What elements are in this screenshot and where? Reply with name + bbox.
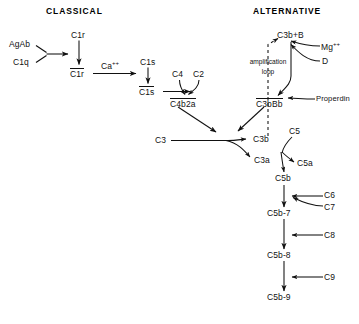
node-c6: C6 <box>324 191 335 200</box>
node-c5b-9: C5b-9 <box>267 293 291 302</box>
header-classical: CLASSICAL <box>46 6 103 16</box>
node-c3b: C3b <box>253 135 269 144</box>
agab-bracket-upper <box>36 46 47 53</box>
node-c1r-inactive: C1r <box>71 31 85 40</box>
node-c3a: C3a <box>254 156 270 165</box>
arrow-mg-to-c3bplusb <box>291 41 320 46</box>
arrow-c7-into-chain <box>293 198 323 207</box>
arrow-c4b2a-to-c3 <box>178 107 216 132</box>
arrow-properdin-to-c3bbb <box>288 98 315 99</box>
complement-cascade-diagram: CLASSICAL ALTERNATIVE AgAb C1q C1r C1r C… <box>0 0 359 324</box>
node-c1r-active-text: C1r <box>70 68 84 78</box>
node-c5b-7: C5b-7 <box>267 209 291 218</box>
node-c5a: C5a <box>297 159 313 168</box>
arrow-c5-to-c5a <box>282 152 294 162</box>
c5-stem <box>282 137 292 153</box>
calcium-charge: ++ <box>112 60 119 66</box>
node-c3bbb-text: C3bBb <box>256 98 283 108</box>
amplification-loop-line-1: amplification <box>231 57 305 67</box>
arrow-c3bbb-to-c3 <box>238 107 264 131</box>
header-alternative: ALTERNATIVE <box>253 6 321 16</box>
node-c3: C3 <box>155 136 166 145</box>
node-c3bbb: C3bBb <box>256 98 283 108</box>
node-c1r-active: C1r <box>70 68 84 78</box>
arrow-c3-to-c3b <box>228 139 246 141</box>
node-c9: C9 <box>324 273 335 282</box>
node-c4b2a-text: C4b2a <box>170 98 196 108</box>
node-c1s-inactive: C1s <box>140 58 155 67</box>
calcium-symbol: Ca <box>101 61 112 71</box>
node-c1s-active-text: C1s <box>139 86 154 96</box>
node-c1s-active: C1s <box>139 86 154 96</box>
node-c5b-8: C5b-8 <box>267 251 291 260</box>
node-c4: C4 <box>172 70 183 79</box>
node-c5b: C5b <box>275 174 291 183</box>
node-agab: AgAb <box>9 40 30 49</box>
arrow-c2-into-complex <box>189 80 200 95</box>
node-calcium-ion: Ca++ <box>101 60 119 70</box>
node-c4b2a: C4b2a <box>170 98 196 108</box>
c1q-bracket-lower <box>36 56 47 63</box>
node-c8: C8 <box>324 231 335 240</box>
node-magnesium-ion: Mg++ <box>321 41 340 51</box>
node-c3b-plus-b: C3b+B <box>277 31 304 40</box>
amplification-loop-line-2: loop <box>231 67 305 77</box>
node-c7: C7 <box>324 203 335 212</box>
node-properdin: Properdin <box>316 95 350 103</box>
node-factor-d: D <box>322 57 328 66</box>
node-c1q: C1q <box>13 58 29 67</box>
arrow-c3-to-c3a <box>226 141 250 158</box>
node-c2: C2 <box>193 70 204 79</box>
magnesium-symbol: Mg <box>321 42 333 52</box>
annotation-amplification-loop: amplification loop <box>231 57 305 76</box>
node-c5: C5 <box>289 127 300 136</box>
magnesium-charge: ++ <box>333 41 340 47</box>
arrow-c5-to-c5b <box>281 152 284 172</box>
arrow-c4-into-complex <box>180 80 186 95</box>
